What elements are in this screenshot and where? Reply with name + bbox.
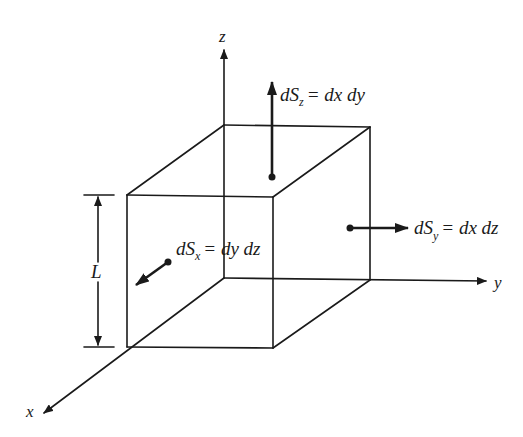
dimension-L: L: [84, 195, 114, 347]
x-axis-label: x: [25, 402, 34, 421]
x-axis: [44, 278, 224, 413]
svg-text:dSy= dx dz: dSy= dx dz: [414, 217, 499, 243]
y-axis-label: y: [492, 273, 502, 292]
svg-text:dSx= dy dz: dSx= dy dz: [176, 238, 261, 263]
cube: [127, 125, 370, 348]
z-axis-label: z: [218, 27, 226, 46]
cube-flux-diagram: z y x L dSz= dx dy dS: [0, 0, 523, 437]
svg-text:dSz= dx dy: dSz= dx dy: [280, 84, 365, 109]
dimension-label: L: [90, 261, 102, 282]
y-axis: [224, 278, 486, 281]
